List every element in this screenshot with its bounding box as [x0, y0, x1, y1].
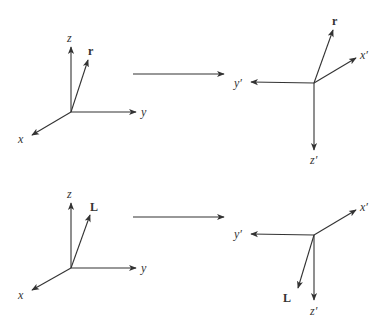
- x-label: x: [17, 132, 24, 146]
- L-axis-arrow: [298, 235, 314, 288]
- r-axis-arrow: [71, 60, 88, 112]
- z-label: z: [66, 187, 72, 201]
- x-prime-label: x′: [359, 48, 368, 62]
- frame-panels: zyxrrx′y′z′zyxLx′y′Lz′: [17, 14, 368, 318]
- y-prime-axis-arrow: [251, 234, 314, 235]
- y-label: y: [140, 261, 147, 275]
- z-label: z: [66, 31, 72, 45]
- frame-bottom-right: x′y′Lz′: [233, 200, 368, 318]
- r-axis-arrow: [314, 30, 333, 83]
- rotation-diagram: zyxrrx′y′z′zyxLx′y′Lz′: [0, 0, 392, 328]
- y-label: y: [140, 105, 147, 119]
- r-label: r: [332, 14, 338, 28]
- transition-arrows: [133, 74, 224, 217]
- z-prime-label: z′: [309, 153, 318, 167]
- y-prime-label: y′: [233, 76, 242, 90]
- x-prime-label: x′: [359, 200, 368, 214]
- L-label: L: [283, 291, 291, 305]
- r-label: r: [88, 44, 94, 58]
- x-prime-axis-arrow: [314, 210, 356, 235]
- frame-top-left: zyxr: [17, 31, 147, 146]
- x-axis-arrow: [32, 268, 71, 290]
- z-prime-label: z′: [309, 304, 318, 318]
- L-axis-arrow: [71, 215, 90, 268]
- L-label: L: [90, 200, 98, 214]
- frame-bottom-left: zyxL: [17, 187, 147, 302]
- x-label: x: [17, 288, 24, 302]
- x-axis-arrow: [32, 112, 71, 135]
- frame-top-right: rx′y′z′: [233, 14, 368, 167]
- y-prime-axis-arrow: [251, 82, 314, 83]
- diagram-svg: zyxrrx′y′z′zyxLx′y′Lz′: [0, 0, 392, 328]
- x-prime-axis-arrow: [314, 58, 356, 83]
- y-prime-label: y′: [233, 227, 242, 241]
